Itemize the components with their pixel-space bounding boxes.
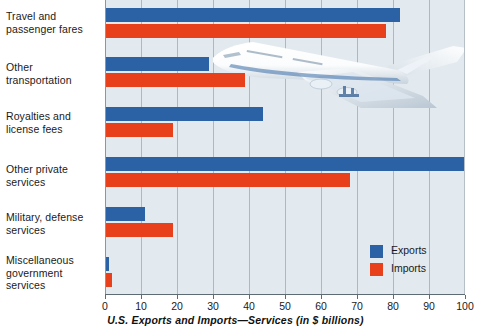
category-label-miscellaneous-government-services: Miscellaneous government services bbox=[6, 254, 101, 292]
tick-mark-80 bbox=[393, 295, 394, 299]
category-label-travel-and-passenger-fares: Travel and passenger fares bbox=[6, 10, 101, 35]
gridline-30 bbox=[213, 0, 214, 295]
legend-swatch-exports bbox=[370, 245, 383, 258]
gridline-70 bbox=[357, 0, 358, 295]
category-axis-labels: Travel and passenger fares Other transpo… bbox=[0, 0, 101, 295]
bar-exports-royalties-and-license-fees bbox=[105, 107, 263, 121]
tick-label-40: 40 bbox=[234, 300, 264, 312]
category-label-line: transportation bbox=[6, 74, 72, 86]
tick-mark-50 bbox=[285, 295, 286, 299]
category-label-line: services bbox=[6, 224, 45, 236]
tick-label-70: 70 bbox=[342, 300, 372, 312]
gridline-50 bbox=[285, 0, 286, 295]
bar-exports-other-transportation bbox=[105, 57, 209, 71]
legend-swatch-imports bbox=[370, 263, 383, 276]
chart-axis-title: U.S. Exports and Imports—Services (in $ … bbox=[0, 314, 479, 326]
bar-imports-miscellaneous-government-services bbox=[105, 273, 112, 287]
plot-right-border bbox=[464, 0, 465, 295]
tick-label-60: 60 bbox=[306, 300, 336, 312]
tick-label-80: 80 bbox=[378, 300, 408, 312]
category-label-line: passenger fares bbox=[6, 23, 83, 35]
category-label-line: license fees bbox=[6, 123, 63, 135]
tick-mark-20 bbox=[177, 295, 178, 299]
legend-item-imports: Imports bbox=[370, 261, 460, 279]
tick-mark-30 bbox=[213, 295, 214, 299]
legend: Exports Imports bbox=[370, 243, 460, 279]
tick-label-90: 90 bbox=[414, 300, 444, 312]
tick-mark-40 bbox=[249, 295, 250, 299]
category-label-royalties-and-license-fees: Royalties and license fees bbox=[6, 110, 101, 135]
y-axis-line bbox=[105, 0, 106, 295]
tick-label-30: 30 bbox=[198, 300, 228, 312]
category-label-line: government bbox=[6, 267, 62, 279]
tick-mark-10 bbox=[141, 295, 142, 299]
category-label-line: Travel and bbox=[6, 10, 56, 22]
tick-mark-60 bbox=[321, 295, 322, 299]
bar-exports-other-private-services bbox=[105, 157, 465, 171]
category-label-other-transportation: Other transportation bbox=[6, 61, 101, 86]
tick-label-20: 20 bbox=[162, 300, 192, 312]
tick-label-10: 10 bbox=[126, 300, 156, 312]
category-label-line: Other private bbox=[6, 163, 68, 175]
services-trade-bar-chart: Travel and passenger fares Other transpo… bbox=[0, 0, 479, 330]
legend-label-imports: Imports bbox=[391, 262, 426, 274]
category-label-line: Other bbox=[6, 61, 33, 73]
bar-imports-travel-and-passenger-fares bbox=[105, 24, 386, 38]
tick-mark-100 bbox=[465, 295, 466, 299]
tick-mark-0 bbox=[105, 295, 106, 299]
bar-imports-military-defense-services bbox=[105, 223, 173, 237]
category-label-line: Royalties and bbox=[6, 110, 71, 122]
bar-imports-royalties-and-license-fees bbox=[105, 123, 173, 137]
category-label-military-defense-services: Military, defense services bbox=[6, 211, 101, 236]
tick-mark-70 bbox=[357, 295, 358, 299]
gridline-40 bbox=[249, 0, 250, 295]
bar-imports-other-transportation bbox=[105, 73, 245, 87]
category-label-line: Miscellaneous bbox=[6, 254, 74, 266]
category-label-line: Military, defense bbox=[6, 211, 83, 223]
gridline-60 bbox=[321, 0, 322, 295]
tick-mark-90 bbox=[429, 295, 430, 299]
tick-label-0: 0 bbox=[90, 300, 120, 312]
bar-exports-military-defense-services bbox=[105, 207, 145, 221]
bar-imports-other-private-services bbox=[105, 173, 350, 187]
tick-label-50: 50 bbox=[270, 300, 300, 312]
legend-label-exports: Exports bbox=[391, 244, 427, 256]
gridline-20 bbox=[177, 0, 178, 295]
tick-label-100: 100 bbox=[450, 300, 479, 312]
category-label-other-private-services: Other private services bbox=[6, 163, 101, 188]
bar-exports-travel-and-passenger-fares bbox=[105, 8, 400, 22]
legend-item-exports: Exports bbox=[370, 243, 460, 261]
category-label-line: services bbox=[6, 279, 45, 291]
category-label-line: services bbox=[6, 176, 45, 188]
gridline-10 bbox=[141, 0, 142, 295]
